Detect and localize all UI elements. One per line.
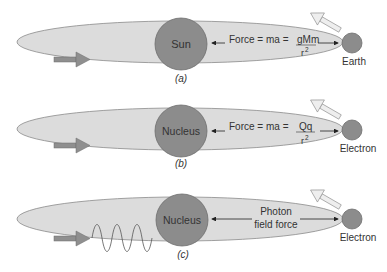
force-numerator: Qq (299, 121, 312, 132)
orbiting-body-label: Electron (340, 143, 377, 154)
center-body-label: Nucleus (163, 214, 201, 226)
panel-c: Nucleus Electron Photon field force (c) (17, 184, 376, 260)
earth-body (342, 33, 362, 53)
force-exponent: 2 (305, 134, 309, 141)
atom-orbit-diagram: Sun Earth Force = ma = gMm r 2 (a) Nucle… (0, 0, 387, 272)
center-body-label: Sun (171, 38, 191, 50)
force-label-line2: field force (254, 219, 298, 230)
electron-body (342, 209, 362, 229)
force-denominator: r (301, 48, 304, 58)
panel-a: Sun Earth Force = ma = gMm r 2 (a) (17, 7, 366, 84)
panel-caption: (b) (175, 158, 187, 169)
force-denominator: r (301, 136, 304, 146)
force-equation: Force = ma = (229, 121, 289, 132)
center-body-label: Nucleus (162, 125, 200, 137)
force-exponent: 2 (305, 46, 309, 53)
orbiting-body-label: Earth (342, 56, 366, 67)
panel-caption: (a) (175, 73, 187, 84)
electron-body (342, 120, 362, 140)
force-numerator: gMm (297, 34, 319, 45)
force-label-line1: Photon (260, 206, 292, 217)
panel-b: Nucleus Electron Force = ma = Qq r 2 (b) (17, 94, 376, 169)
force-equation: Force = ma = (229, 34, 289, 45)
orbiting-body-label: Electron (340, 232, 377, 243)
panel-caption: (c) (177, 249, 189, 260)
